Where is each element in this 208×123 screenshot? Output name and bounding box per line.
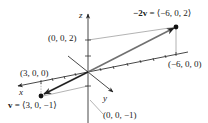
vector-label-v: v = ⟨3, 0, −1⟩ bbox=[8, 101, 57, 110]
z-axis-label: z bbox=[79, 11, 83, 20]
vector-name-v: v bbox=[8, 100, 13, 110]
y-axis bbox=[68, 56, 113, 92]
vector-components-neg2v: ⟨−6, 0, 2⟩ bbox=[157, 8, 192, 18]
vector-components-v: ⟨3, 0, −1⟩ bbox=[22, 100, 57, 110]
point-label-z-neg1: (0, 0, −1) bbox=[103, 111, 137, 120]
point-label-z2: (0, 0, 2) bbox=[48, 34, 77, 43]
vector-label-neg2v: −2v = ⟨−6, 0, 2⟩ bbox=[133, 9, 191, 18]
point-label-neg-x6: (−6, 0, 0) bbox=[168, 60, 202, 69]
point-label-x3: (3, 0, 0) bbox=[20, 69, 49, 78]
x-axis-label: x bbox=[19, 88, 23, 97]
y-axis-label: y bbox=[103, 94, 107, 103]
vector-neg2v bbox=[88, 28, 174, 72]
vector-name-neg2v: −2v bbox=[133, 8, 147, 18]
point-neg2v bbox=[174, 25, 179, 30]
vector-equals: = bbox=[15, 100, 22, 110]
guide-zneg1-label bbox=[90, 100, 103, 114]
vector-equals: = bbox=[149, 8, 156, 18]
point-v bbox=[39, 94, 44, 99]
